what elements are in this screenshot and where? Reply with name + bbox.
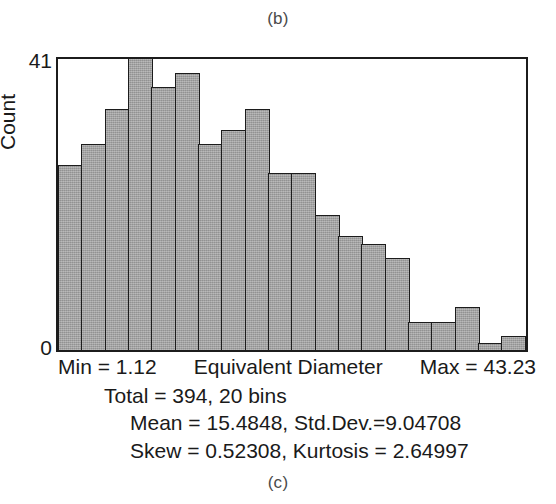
histogram-bar (338, 236, 363, 350)
histogram-bar (431, 322, 456, 350)
histogram-bar (478, 343, 503, 350)
histogram-bar (151, 87, 176, 350)
histogram-bar (175, 73, 200, 350)
histogram-bars (58, 59, 526, 350)
plot-area (56, 57, 528, 352)
histogram-bar (245, 109, 270, 350)
x-axis-caption-row: Min = 1.12 Equivalent Diameter Max = 43.… (56, 355, 536, 379)
histogram-bar (455, 307, 480, 350)
panel-label-c: (c) (0, 473, 556, 493)
y-tick-max: 41 (29, 50, 52, 71)
x-axis-label: Equivalent Diameter (194, 355, 383, 379)
stats-mean-line: Mean = 15.4848, Std.Dev.=9.04708 (130, 409, 536, 436)
statistics-block: Total = 394, 20 bins Mean = 15.4848, Std… (96, 382, 536, 464)
y-axis-label: Count (0, 30, 20, 150)
histogram-bar (198, 144, 223, 350)
min-label: Min = 1.12 (58, 355, 157, 379)
histogram-bar (81, 144, 106, 350)
histogram-bar (58, 165, 83, 350)
histogram-bar (408, 322, 433, 350)
histogram-figure: (b) 41 0 Count Min = 1.12 Equivalent Dia… (0, 0, 556, 504)
max-label: Max = 43.23 (420, 355, 536, 379)
histogram-bar (385, 258, 410, 350)
histogram-bar (501, 336, 526, 350)
histogram-bar (291, 173, 316, 350)
panel-label-b: (b) (0, 9, 556, 29)
stats-skew-line: Skew = 0.52308, Kurtosis = 2.64997 (130, 437, 536, 464)
y-tick-min: 0 (40, 337, 52, 358)
histogram-bar (221, 130, 246, 350)
histogram-bar (128, 59, 153, 350)
stats-total-line: Total = 394, 20 bins (104, 382, 536, 409)
histogram-bar (361, 244, 386, 350)
histogram-bar (105, 109, 130, 350)
histogram-bar (268, 173, 293, 350)
histogram-bar (315, 215, 340, 350)
